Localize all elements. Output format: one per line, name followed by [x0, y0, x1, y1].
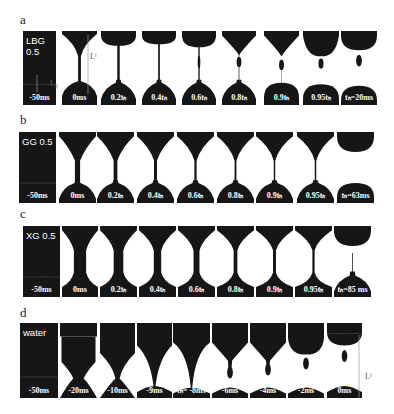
- panel-b-6: 0.9tₕ: [256, 132, 293, 203]
- row-label-c: c: [20, 206, 26, 222]
- time-caption: 0.9tₕ: [264, 93, 299, 102]
- time-caption: 0.4tₕ: [137, 191, 174, 200]
- time-caption: 0.8tₕ: [217, 191, 254, 200]
- time-caption: 0.8tₕ: [222, 93, 256, 102]
- time-caption: 0.95tₕ: [295, 285, 332, 294]
- panel-d-8: 0ms: [327, 323, 362, 398]
- panel-b-7: 0.95tₕ: [297, 132, 334, 203]
- panel-d-2: -10ms: [100, 323, 135, 398]
- time-caption: 0.8tₕ: [217, 285, 254, 294]
- time-caption: -50ms: [20, 386, 58, 395]
- fluid-label: GG 0.5: [22, 136, 53, 147]
- panel-a-0: -50msLBG 0.5: [23, 31, 56, 105]
- time-caption: tₕ= -8ms: [173, 386, 210, 395]
- panel-a-1: 0ms: [62, 31, 97, 105]
- time-caption: 0.6tₕ: [178, 285, 215, 294]
- panel-c-2: 0.2tₕ: [100, 226, 137, 297]
- time-caption: 0.2tₕ: [101, 93, 136, 102]
- fluid-label: water: [23, 327, 46, 338]
- panel-d-3: -9ms: [137, 323, 172, 398]
- panel-c-0: -50msXG 0.5: [23, 226, 60, 297]
- panel-d-5: -6ms: [212, 323, 248, 398]
- time-caption: 0.6tₕ: [177, 191, 214, 200]
- time-caption: tₕ=63ms: [337, 191, 374, 200]
- panel-d-4: tₕ= -8ms: [173, 323, 210, 398]
- row-label-a: a: [20, 12, 26, 28]
- time-caption: 0.4tₕ: [142, 93, 176, 102]
- panel-b-5: 0.8tₕ: [217, 132, 254, 203]
- time-caption: 0.9tₕ: [256, 191, 293, 200]
- panel-b-1: 0ms: [59, 132, 96, 203]
- time-caption: -10ms: [100, 386, 135, 395]
- panel-c-6: 0.9tₕ: [256, 226, 293, 297]
- time-caption: -50ms: [23, 285, 60, 294]
- panel-a-8: tₕ=20ms: [341, 31, 377, 105]
- panel-d-0: -50mswater: [20, 323, 58, 398]
- panel-c-8: tₕ=85 ms: [334, 226, 371, 297]
- time-caption: -50ms: [23, 93, 56, 102]
- time-caption: 0ms: [327, 386, 362, 395]
- time-caption: -20ms: [60, 386, 97, 395]
- panel-a-3: 0.4tₕ: [142, 31, 176, 105]
- time-caption: -9ms: [137, 386, 172, 395]
- panel-a-6: 0.9tₕ: [264, 31, 299, 105]
- time-caption: 0.4tₕ: [139, 285, 176, 294]
- fluid-label: LBG 0.5: [26, 35, 56, 57]
- time-caption: 0.9tₕ: [256, 285, 293, 294]
- panel-d-1: -20ms: [60, 323, 97, 398]
- panel-a-4: 0.6tₕ: [182, 31, 216, 105]
- time-caption: 0.2tₕ: [97, 191, 134, 200]
- panel-d-7: -2ms: [288, 323, 324, 398]
- panel-b-0: -50msGG 0.5: [19, 132, 56, 203]
- time-caption: 0.95tₕ: [303, 93, 339, 102]
- time-caption: tₕ=20ms: [341, 93, 377, 102]
- time-caption: 0ms: [59, 191, 96, 200]
- time-caption: 0.95tₕ: [297, 191, 334, 200]
- panel-b-2: 0.2tₕ: [97, 132, 134, 203]
- panel-c-7: 0.95tₕ: [295, 226, 332, 297]
- time-caption: tₕ=85 ms: [334, 285, 371, 294]
- panel-a-2: 0.2tₕ: [101, 31, 136, 105]
- row-label-b: b: [20, 112, 27, 128]
- panel-b-4: 0.6tₕ: [177, 132, 214, 203]
- length-label-lf-water: Lᶠ: [365, 372, 372, 381]
- time-caption: 0ms: [62, 285, 98, 294]
- time-caption: -2ms: [288, 386, 324, 395]
- panel-b-8: tₕ=63ms: [337, 132, 374, 203]
- time-caption: -50ms: [19, 191, 56, 200]
- time-caption: -6ms: [212, 386, 248, 395]
- panel-b-3: 0.4tₕ: [137, 132, 174, 203]
- time-caption: -4ms: [250, 386, 286, 395]
- length-label-l0: L₀: [50, 79, 58, 88]
- time-caption: 0.2tₕ: [100, 285, 137, 294]
- length-label-lf: Lᶠ: [90, 52, 97, 61]
- panel-d-6: -4ms: [250, 323, 286, 398]
- panel-c-4: 0.6tₕ: [178, 226, 215, 297]
- time-caption: 0ms: [62, 93, 97, 102]
- panel-c-3: 0.4tₕ: [139, 226, 176, 297]
- panel-c-1: 0ms: [62, 226, 98, 297]
- row-label-d: d: [20, 305, 27, 321]
- fluid-label: XG 0.5: [26, 230, 56, 241]
- panel-a-7: 0.95tₕ: [303, 31, 339, 105]
- panel-c-5: 0.8tₕ: [217, 226, 254, 297]
- panel-a-5: 0.8tₕ: [222, 31, 256, 105]
- time-caption: 0.6tₕ: [182, 93, 216, 102]
